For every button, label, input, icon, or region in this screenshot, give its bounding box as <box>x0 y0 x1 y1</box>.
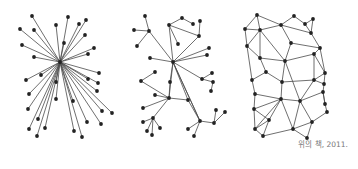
network-node <box>30 14 34 18</box>
network-node <box>141 106 145 110</box>
network-node <box>27 127 31 131</box>
network-node <box>191 22 195 26</box>
network-edge <box>134 30 149 31</box>
network-node <box>54 80 58 84</box>
network-edge <box>314 73 325 80</box>
network-node <box>96 81 100 85</box>
network-node <box>291 127 295 131</box>
network-node <box>139 79 143 83</box>
network-edge <box>294 16 305 24</box>
network-node <box>32 28 36 32</box>
network-node <box>264 70 268 74</box>
network-node <box>143 14 147 18</box>
network-node <box>292 14 296 18</box>
network-node <box>58 60 62 64</box>
network-node <box>200 77 204 81</box>
network-edge <box>257 15 281 25</box>
network-node <box>99 122 103 126</box>
network-edge <box>173 55 207 62</box>
network-node <box>197 34 201 38</box>
network-edge <box>254 109 255 129</box>
network-edge <box>20 29 60 62</box>
network-node <box>312 78 316 82</box>
network-edge <box>247 30 260 46</box>
network-node <box>321 90 325 94</box>
network-node <box>86 77 90 81</box>
network-node <box>214 108 218 112</box>
network-node <box>312 52 316 56</box>
network-node <box>223 110 227 114</box>
network-edge <box>260 58 266 72</box>
network-node <box>192 134 196 138</box>
network-node <box>62 41 66 45</box>
network-edge <box>200 121 214 123</box>
network-node <box>27 92 31 96</box>
network-edge <box>281 82 282 99</box>
network-node <box>150 133 154 137</box>
network-node <box>168 80 172 84</box>
network-node <box>279 97 283 101</box>
network-node <box>258 56 262 60</box>
source-caption: 위의 책, 2011. <box>298 138 348 149</box>
network-edge <box>260 25 281 30</box>
network-node <box>148 56 152 60</box>
network-edge <box>245 29 260 30</box>
network-node <box>141 120 145 124</box>
network-node <box>153 93 157 97</box>
network-edge <box>266 72 282 82</box>
network-node <box>283 59 287 63</box>
network-edge <box>34 30 60 62</box>
network-edge <box>293 122 312 129</box>
network-node <box>289 41 293 45</box>
network-node <box>180 16 184 20</box>
network-node <box>322 82 326 86</box>
network-edge <box>281 25 291 43</box>
network-node <box>66 15 70 19</box>
network-edge <box>60 62 97 91</box>
network-edge <box>145 16 149 31</box>
network-node <box>261 134 265 138</box>
network-edge <box>247 46 252 80</box>
network-node <box>253 127 257 131</box>
network-node <box>80 135 84 139</box>
network-node <box>211 80 215 84</box>
network-edge <box>260 58 285 61</box>
network-node <box>36 117 40 121</box>
network-node <box>35 134 39 138</box>
network-centralized <box>18 14 114 139</box>
network-edge <box>311 33 320 48</box>
network-node <box>243 27 247 31</box>
network-node <box>71 99 75 103</box>
network-edge <box>257 15 260 30</box>
network-node <box>153 70 157 74</box>
network-node <box>252 107 256 111</box>
network-edge <box>173 62 202 79</box>
network-node <box>309 31 313 35</box>
network-edge <box>285 54 314 61</box>
network-node <box>95 89 99 93</box>
network-node <box>171 60 175 64</box>
network-edge <box>255 94 281 99</box>
network-node <box>72 129 76 133</box>
network-node <box>83 33 87 37</box>
network-node <box>325 110 329 114</box>
network-node <box>110 111 114 115</box>
network-node <box>176 42 180 46</box>
network-edge <box>307 122 312 138</box>
network-node <box>54 23 58 27</box>
network-node <box>24 78 28 82</box>
network-node <box>210 71 214 75</box>
network-node <box>167 96 171 100</box>
network-node <box>207 46 211 50</box>
network-node <box>198 119 202 123</box>
network-edge <box>282 80 314 82</box>
network-node <box>132 28 136 32</box>
network-edge <box>247 46 260 58</box>
network-node <box>158 126 162 130</box>
network-edge <box>254 109 269 120</box>
network-edge <box>252 72 266 80</box>
network-node <box>323 71 327 75</box>
network-node <box>26 107 30 111</box>
network-node <box>209 89 213 93</box>
network-node <box>20 43 24 47</box>
